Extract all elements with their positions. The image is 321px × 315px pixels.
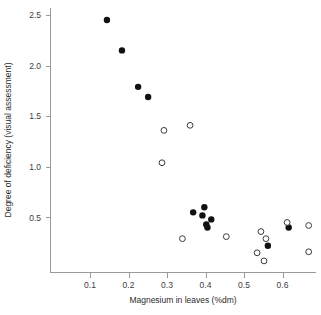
data-point-open: [180, 236, 186, 242]
data-point-open: [187, 122, 193, 128]
data-point-open: [159, 160, 165, 166]
plot-area: 0.51.01.52.02.5 0.10.20.30.40.50.6 Magne…: [0, 0, 321, 315]
data-point-open: [306, 249, 312, 255]
data-point-filled: [199, 212, 205, 218]
data-point-open: [223, 234, 229, 240]
scatter-chart: 0.51.01.52.02.5 0.10.20.30.40.50.6 Magne…: [0, 0, 321, 315]
x-tick-label: 0.1: [84, 280, 96, 290]
data-point-filled: [119, 47, 125, 53]
data-point-filled: [135, 84, 141, 90]
data-point-filled: [104, 17, 110, 23]
x-tick-label: 0.4: [200, 280, 212, 290]
data-point-open: [284, 220, 290, 226]
x-tick-label: 0.5: [238, 280, 250, 290]
y-axis-title: Degree of deficiency (visual assessment): [3, 62, 13, 217]
data-point-open: [306, 223, 312, 229]
data-point-open: [263, 236, 269, 242]
data-point-open: [254, 250, 260, 256]
data-point-filled: [265, 243, 271, 249]
data-point-open: [161, 127, 167, 133]
data-point-open: [261, 258, 267, 264]
data-point-filled: [201, 204, 207, 210]
data-point-filled: [208, 216, 214, 222]
data-point-filled: [204, 224, 210, 230]
data-point-filled: [145, 94, 151, 100]
y-tick-label: 1.5: [29, 111, 41, 121]
y-tick-label: 2.5: [29, 10, 41, 20]
y-tick-label: 1.0: [29, 162, 41, 172]
x-tick-group: 0.10.20.30.40.50.6: [84, 273, 289, 291]
x-tick-label: 0.6: [277, 280, 289, 290]
data-point-group: [104, 17, 312, 264]
y-tick-label: 2.0: [29, 61, 41, 71]
x-axis-title: Magnesium in leaves (%dm): [129, 295, 236, 305]
x-axis: 0.10.20.30.40.50.6: [51, 273, 317, 291]
x-tick-label: 0.3: [161, 280, 173, 290]
data-point-open: [258, 229, 264, 235]
x-tick-label: 0.2: [123, 280, 135, 290]
y-tick-label: 0.5: [29, 213, 41, 223]
y-tick-group: 0.51.01.52.02.5: [29, 10, 50, 222]
y-axis: 0.51.01.52.02.5: [29, 8, 50, 273]
data-point-filled: [190, 209, 196, 215]
